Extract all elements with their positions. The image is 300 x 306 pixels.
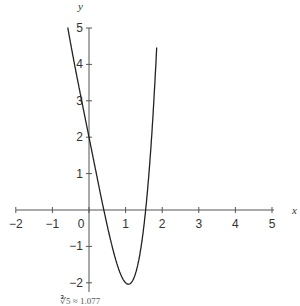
caption: ∛5 ≈ 1.077 — [60, 296, 100, 306]
x-tick-label: 2 — [159, 217, 166, 231]
y-tick-label: 1 — [76, 167, 83, 181]
x-tick-label: −1 — [46, 217, 60, 231]
x-tick-label: 5 — [269, 217, 276, 231]
y-tick-label: −2 — [69, 276, 83, 290]
y-tick-label: −1 — [69, 239, 83, 253]
x-tick-label: −2 — [9, 217, 23, 231]
x-tick-label: 4 — [232, 217, 239, 231]
y-tick-label: 4 — [76, 57, 83, 71]
x-axis-label: x — [291, 204, 297, 216]
y-tick-label: 5 — [76, 21, 83, 35]
x-tick-label: 3 — [195, 217, 202, 231]
y-tick-label: 2 — [76, 130, 83, 144]
x-tick-label: 1 — [122, 217, 129, 231]
x-tick-label: 0 — [78, 217, 85, 231]
y-axis-label: y — [77, 0, 83, 12]
function-plot: −2−1012345 −2−112345 x y — [0, 0, 300, 306]
